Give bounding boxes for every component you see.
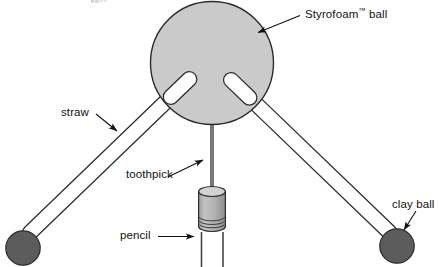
straw-leader-line (96, 114, 117, 131)
label-toothpick: toothpick (126, 168, 173, 181)
toothpick-leader-line (168, 160, 203, 177)
diagram-canvas: Styrofoam™ ball straw toothpick pencil c… (0, 0, 445, 267)
diagram-illustration (0, 0, 445, 267)
label-styrofoam-ball-text: Styrofoam (305, 8, 358, 20)
left-clay-ball (6, 231, 40, 265)
styrofoam-ball (151, 2, 274, 125)
toothpick (209, 120, 214, 190)
styrofoam-ball-leader-line (258, 16, 300, 33)
pencil-eraser (199, 187, 226, 232)
label-straw: straw (61, 106, 89, 119)
right-clay-ball (380, 229, 414, 263)
label-styrofoam-ball-suffix: ball (366, 8, 388, 20)
clay-ball-leader-line (404, 211, 416, 230)
label-styrofoam-ball: Styrofoam™ ball (305, 7, 387, 20)
cropped-text-artifact (91, 0, 107, 3)
trademark-symbol: ™ (358, 6, 366, 15)
pencil-body (202, 232, 224, 267)
label-pencil: pencil (120, 229, 151, 242)
label-clay-ball: clay ball (392, 198, 434, 211)
